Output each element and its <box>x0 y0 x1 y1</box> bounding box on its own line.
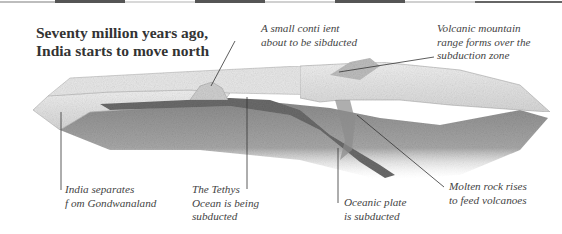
label-line: Oceanic plate <box>344 196 406 210</box>
label-line: about to be sibducted <box>261 36 357 50</box>
label-line: to feed volcanoes <box>449 194 527 208</box>
label-line: f om Gondwanaland <box>65 197 156 211</box>
label-small-continent: A small conti ient about to be sibducted <box>261 22 357 49</box>
label-oceanic-plate: Oceanic plate is subducted <box>344 196 406 223</box>
label-line: A small conti ient <box>261 22 357 36</box>
label-line: range forms over the <box>437 36 531 50</box>
label-line: subduction zone <box>437 49 531 63</box>
label-line: Volcanic mountain <box>437 22 531 36</box>
label-line: Ocean is being <box>192 197 259 211</box>
label-line: is subducted <box>344 210 406 224</box>
label-molten-rock: Molten rock rises to feed volcanoes <box>449 180 527 207</box>
label-volcanic-range: Volcanic mountain range forms over the s… <box>437 22 531 63</box>
label-line: The Tethys <box>192 183 259 197</box>
label-line: subducted <box>192 210 259 224</box>
label-line: Molten rock rises <box>449 180 527 194</box>
label-tethys: The Tethys Ocean is being subducted <box>192 183 259 224</box>
label-india-separates: India separates f om Gondwanaland <box>65 183 156 210</box>
label-line: India separates <box>65 183 156 197</box>
